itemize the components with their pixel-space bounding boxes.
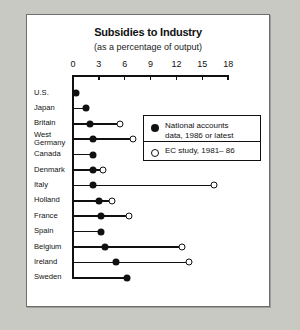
x-axis-tick (98, 75, 100, 80)
category-label: Canada (34, 150, 61, 158)
legend-item-label: EC study, 1981– 86 (165, 146, 235, 156)
data-point-ec-study (130, 136, 137, 143)
category-label: U.S. (34, 89, 49, 97)
x-axis-tick-label: 12 (171, 59, 181, 69)
data-point-ec-study (117, 120, 124, 127)
category-label: Italy (34, 181, 48, 189)
data-point-national-accounts (95, 197, 102, 204)
category-baseline (72, 75, 74, 279)
category-label: Japan (34, 104, 55, 112)
category-label: Britain (34, 119, 56, 127)
data-stem (73, 169, 103, 171)
category-label: Denmark (34, 166, 65, 174)
data-point-national-accounts (97, 213, 104, 220)
legend-divider (144, 141, 260, 142)
data-point-national-accounts (101, 244, 108, 251)
x-axis-tick-label: 6 (122, 59, 127, 69)
data-stem (73, 262, 189, 264)
data-point-national-accounts (82, 105, 89, 112)
data-point-national-accounts (124, 274, 131, 281)
chart-legend: National accounts data, 1986 or latest E… (143, 115, 261, 161)
open-circle-icon (151, 149, 159, 157)
data-point-national-accounts (87, 120, 94, 127)
x-axis-tick-label: 15 (197, 59, 207, 69)
category-label: WestGermany (34, 131, 65, 148)
chart-panel: Subsidies to Industry (as a percentage o… (26, 14, 270, 307)
category-label: Holland (34, 196, 60, 204)
x-axis-tick (227, 75, 229, 80)
category-label: Belgium (34, 243, 61, 251)
data-point-ec-study (185, 259, 192, 266)
data-stem (73, 277, 127, 279)
data-point-national-accounts (89, 182, 96, 189)
legend-line-1: National accounts (165, 121, 229, 130)
data-point-national-accounts (72, 90, 79, 97)
legend-line-1: EC study, 1981– 86 (165, 146, 235, 155)
data-stem (73, 246, 182, 248)
x-axis-tick-label: 9 (148, 59, 153, 69)
legend-line-2: data, 1986 or latest (165, 131, 234, 140)
data-point-national-accounts (98, 228, 105, 235)
data-point-ec-study (126, 213, 133, 220)
x-axis-tick (124, 75, 126, 80)
category-label: Sweden (34, 273, 61, 281)
data-point-national-accounts (113, 259, 120, 266)
x-axis-tick-label: 0 (70, 59, 75, 69)
x-axis-tick-label: 3 (96, 59, 101, 69)
x-axis-tick (176, 75, 178, 80)
data-point-ec-study (108, 197, 115, 204)
x-axis-tick (202, 75, 204, 80)
x-axis-tick (150, 75, 152, 80)
data-stem (73, 123, 120, 125)
category-label: Spain (34, 227, 53, 235)
data-point-national-accounts (89, 167, 96, 174)
x-axis-tick-label: 18 (223, 59, 233, 69)
data-stem (73, 138, 133, 140)
data-point-national-accounts (89, 136, 96, 143)
category-label: France (34, 212, 58, 220)
legend-item-label: National accounts data, 1986 or latest (165, 121, 234, 141)
data-stem (73, 200, 112, 202)
data-point-ec-study (100, 167, 107, 174)
data-point-ec-study (211, 182, 218, 189)
filled-circle-icon (151, 124, 159, 132)
data-point-national-accounts (89, 151, 96, 158)
data-point-ec-study (179, 244, 186, 251)
category-label: Ireland (34, 258, 57, 266)
